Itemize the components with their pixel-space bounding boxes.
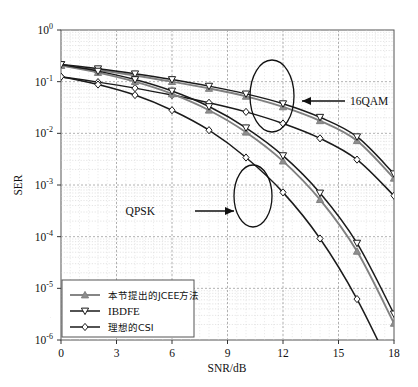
y-axis-label: SER bbox=[12, 174, 24, 195]
chart-legend: 本节提出的JCEE方法IBDFE理想的CSI bbox=[62, 280, 199, 337]
x-tick-label: 15 bbox=[333, 347, 345, 359]
x-tick-label: 9 bbox=[225, 347, 231, 359]
x-tick-label: 0 bbox=[58, 347, 64, 359]
annotation-qpsk-label: QPSK bbox=[126, 205, 156, 217]
x-tick-label: 6 bbox=[169, 347, 175, 359]
x-axis-label: SNR/dB bbox=[208, 362, 247, 374]
ser-vs-snr-chart: 16QAM QPSK 0369121518 10010-110-210-310-… bbox=[0, 0, 418, 387]
annotation-16qam-label: 16QAM bbox=[350, 95, 388, 107]
x-tick-label: 3 bbox=[114, 347, 120, 359]
legend-label: IBDFE bbox=[108, 305, 140, 317]
x-tick-label: 18 bbox=[388, 347, 400, 359]
legend-label: 本节提出的JCEE方法 bbox=[108, 290, 199, 301]
x-tick-label: 12 bbox=[277, 347, 289, 359]
legend-label: 理想的CSI bbox=[108, 322, 153, 333]
